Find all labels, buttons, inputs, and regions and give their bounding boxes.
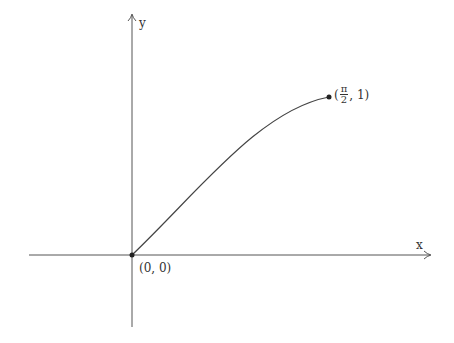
fraction: π 2 xyxy=(340,84,349,105)
origin-point xyxy=(130,253,135,258)
paren-open: ( xyxy=(334,88,339,102)
sine-curve xyxy=(132,97,329,255)
paren-close: , 1) xyxy=(349,88,369,102)
fraction-denominator: 2 xyxy=(341,95,347,105)
plot-canvas xyxy=(0,0,454,343)
x-axis-label: x xyxy=(416,238,423,252)
origin-label: (0, 0) xyxy=(139,261,171,275)
end-point-label: ( π 2 , 1) xyxy=(334,84,369,105)
y-axis-label: y xyxy=(139,16,146,30)
end-point xyxy=(327,95,332,100)
